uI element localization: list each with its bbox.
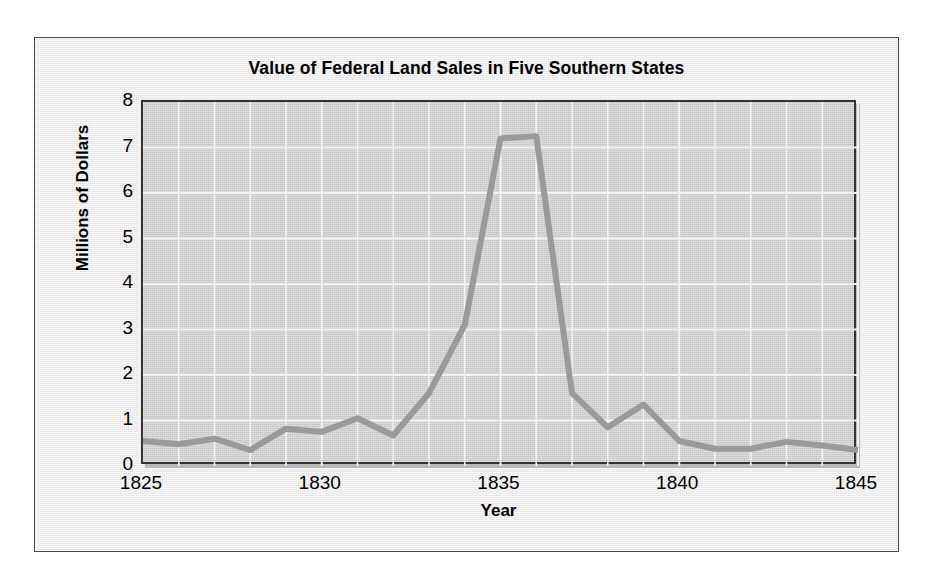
x-tick-label-1830: 1830 xyxy=(299,472,341,494)
y-tick-label-4: 4 xyxy=(111,271,133,293)
x-tick-label-1835: 1835 xyxy=(477,472,519,494)
plot-area xyxy=(141,100,856,464)
y-axis-title: Millions of Dollars xyxy=(73,88,93,308)
x-tick-label-1840: 1840 xyxy=(656,472,698,494)
x-tick-label-1825: 1825 xyxy=(120,472,162,494)
x-axis-tick-labels: 18251830183518401845 xyxy=(141,472,856,498)
x-axis-title: Year xyxy=(141,501,856,521)
y-tick-label-1: 1 xyxy=(111,408,133,430)
y-tick-label-7: 7 xyxy=(111,135,133,157)
series-line-value-of-federal-land-sales xyxy=(143,136,858,450)
chart-figure-frame: Value of Federal Land Sales in Five Sout… xyxy=(34,37,899,552)
data-series-line xyxy=(143,102,858,466)
plot-wrapper xyxy=(141,100,856,464)
chart-title: Value of Federal Land Sales in Five Sout… xyxy=(35,58,898,79)
y-tick-label-8: 8 xyxy=(111,89,133,111)
y-tick-label-2: 2 xyxy=(111,362,133,384)
y-tick-label-3: 3 xyxy=(111,317,133,339)
y-tick-label-5: 5 xyxy=(111,226,133,248)
x-tick-label-1845: 1845 xyxy=(835,472,877,494)
y-tick-label-6: 6 xyxy=(111,180,133,202)
y-axis-tick-labels: 012345678 xyxy=(103,100,133,464)
